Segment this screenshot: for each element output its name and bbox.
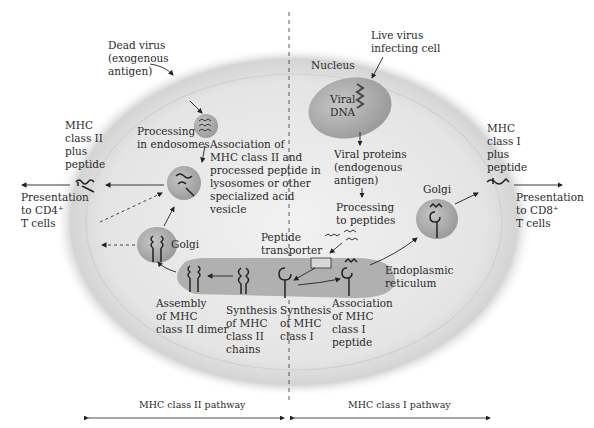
endoplasmic-reticulum (177, 258, 395, 298)
peptide-transporter-icon (311, 258, 331, 268)
synthesis-mhc1-label: Synthesis of MHC class I (280, 304, 331, 343)
synthesis-mhc2-label: Synthesis of MHC class II chains (226, 304, 277, 356)
peptide-transporter-label: Peptide transporter (261, 231, 322, 257)
mhc1-pathway-label: MHC class I pathway (348, 398, 451, 411)
processing-peptides-label: Processing to peptides (336, 201, 395, 227)
golgi-left-label: Golgi (171, 238, 199, 251)
association-mhc2-label: Association of MHC class II and processe… (210, 138, 321, 216)
golgi-right-label: Golgi (423, 183, 451, 196)
endoplasmic-reticulum-label: Endoplasmic reticulum (385, 264, 453, 290)
assembly-mhc2-label: Assembly of MHC class II dimer (156, 297, 229, 336)
association-mhc1-label: Association of MHC class I peptide (332, 297, 393, 349)
mhc2-pathway-label: MHC class II pathway (139, 398, 245, 411)
dead-virus-label: Dead virus (exogenous antigen) (108, 39, 169, 78)
processing-endosomes-label: Processing in endosomes (137, 125, 210, 151)
viral-dna-label: Viral DNA (330, 93, 355, 119)
viral-proteins-label: Viral proteins (endogenous antigen) (334, 148, 407, 187)
presentation-cd4-label: Presentation to CD4⁺ T cells (21, 191, 89, 230)
mhc1-plus-peptide-label: MHC class I plus peptide (487, 122, 527, 174)
presentation-cd8-label: Presentation to CD8⁺ T cells (516, 191, 584, 230)
mhc2-plus-peptide-label: MHC class II plus peptide (65, 119, 105, 171)
live-virus-label: Live virus infecting cell (371, 29, 440, 55)
nucleus-label: Nucleus (311, 59, 355, 72)
cell-body (54, 47, 534, 397)
